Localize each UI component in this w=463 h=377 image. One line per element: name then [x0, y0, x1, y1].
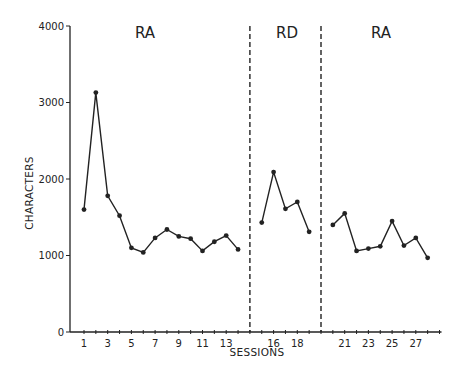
x-tick-label: 21: [338, 338, 351, 349]
data-point: [153, 236, 158, 241]
data-point: [413, 236, 418, 241]
phase-change-lines: [250, 26, 321, 332]
y-tick-label: 3000: [39, 97, 64, 108]
x-tick-label: 27: [409, 338, 422, 349]
data-point: [425, 255, 430, 260]
data-point: [129, 245, 134, 250]
data-point: [82, 207, 87, 212]
data-point: [141, 250, 146, 255]
data-point: [402, 243, 407, 248]
data-point: [93, 90, 98, 95]
data-point: [342, 211, 347, 216]
data-point: [105, 193, 110, 198]
x-axis-title: SESSIONS: [230, 346, 285, 358]
series-line: [333, 213, 428, 257]
data-point: [212, 239, 217, 244]
data-point: [117, 213, 122, 218]
x-tick-label: 23: [362, 338, 375, 349]
y-tick-label: 4000: [39, 21, 64, 32]
x-tick-label: 5: [128, 338, 134, 349]
x-tick-label: 3: [105, 338, 111, 349]
data-point: [236, 247, 241, 252]
data-point: [200, 249, 205, 254]
line-chart: 01000200030004000135791113161821232527 R…: [0, 0, 463, 377]
phase-label-ra-2: RA: [371, 24, 392, 42]
x-tick-label: 18: [291, 338, 304, 349]
data-point: [295, 200, 300, 205]
series-line: [84, 93, 238, 253]
x-tick-label: 11: [196, 338, 209, 349]
data-point: [354, 249, 359, 254]
x-tick-label: 25: [386, 338, 399, 349]
x-tick-label: 9: [176, 338, 182, 349]
axes: 01000200030004000135791113161821232527: [39, 21, 442, 350]
y-axis-title: CHARACTERS: [23, 156, 35, 230]
data-point: [259, 220, 264, 225]
y-tick-label: 2000: [39, 174, 64, 185]
data-point: [165, 227, 170, 232]
phase-label-ra-1: RA: [135, 24, 156, 42]
data-point: [224, 233, 229, 238]
data-point: [283, 206, 288, 211]
data-series: [82, 90, 430, 260]
data-point: [366, 246, 371, 251]
data-point: [188, 236, 193, 241]
y-tick-label: 0: [58, 327, 64, 338]
series-line: [262, 172, 309, 232]
data-point: [390, 219, 395, 224]
data-point: [378, 244, 383, 249]
data-point: [330, 223, 335, 228]
data-point: [271, 170, 276, 175]
x-tick-label: 1: [81, 338, 87, 349]
y-tick-label: 1000: [39, 250, 64, 261]
data-point: [176, 234, 181, 239]
data-point: [307, 229, 312, 234]
phase-label-rd: RD: [276, 24, 298, 42]
x-tick-label: 7: [152, 338, 158, 349]
